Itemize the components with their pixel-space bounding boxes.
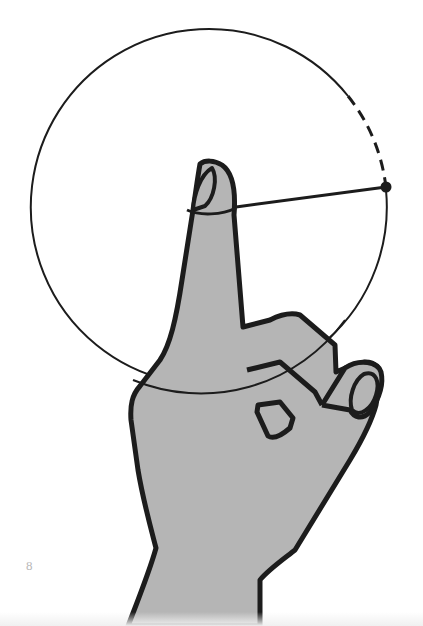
string-end-point (381, 182, 392, 193)
string-line (236, 187, 386, 207)
circle-dashed-arc (348, 96, 386, 188)
hand-circle-illustration (0, 0, 423, 626)
page-number: 8 (26, 558, 33, 574)
hand (128, 161, 382, 626)
page-bottom-edge (0, 612, 423, 626)
